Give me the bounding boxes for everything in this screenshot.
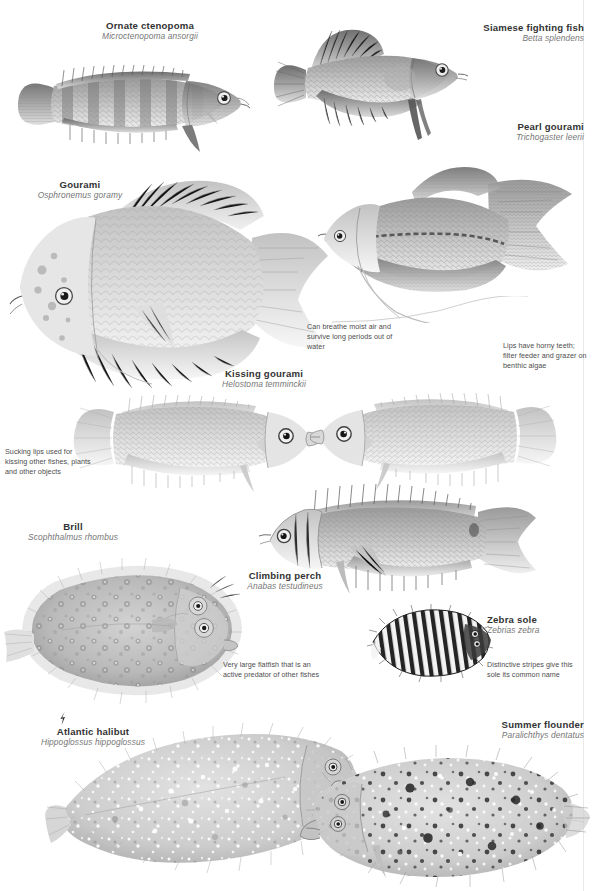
common-name: Summer flounder [420, 719, 584, 730]
common-name: Siamese fighting fish [410, 22, 584, 33]
note-sucking-lips: Sucking lips used for kissing other fish… [5, 447, 95, 478]
label-gourami: Gourami Osphronemus goramy [10, 179, 150, 201]
scientific-name: Helostoma temminckii [190, 380, 338, 390]
label-ornate-ctenopoma: Ornate ctenopoma Microctenopoma ansorgii [75, 20, 225, 42]
label-pearl-gourami: Pearl gourami Trichogaster leerii [420, 121, 584, 143]
label-brill: Brill Scophthalmus rhombus [0, 521, 146, 543]
label-kissing-gourami: Kissing gourami Helostoma temminckii [190, 368, 338, 390]
scientific-name: Paralichthys dentatus [420, 731, 584, 741]
note-large-flatfish: Very large flatfish that is an active pr… [223, 660, 327, 680]
status-marker-icon [60, 711, 69, 724]
note-zebra-stripes: Distinctive stripes give this sole its c… [487, 660, 579, 680]
illustration-summer-flounder [300, 742, 590, 887]
scientific-name: Hippoglossus hippoglossus [0, 738, 186, 748]
illustration-brill [2, 548, 252, 708]
scientific-name: Osphronemus goramy [10, 191, 150, 201]
label-summer-flounder: Summer flounder Paralichthys dentatus [420, 719, 584, 741]
label-siamese-fighting-fish: Siamese fighting fish Betta splendens [410, 22, 584, 44]
illustration-zebra-sole [365, 604, 495, 682]
scientific-name: Microctenopoma ansorgii [75, 32, 225, 42]
common-name: Pearl gourami [420, 121, 584, 132]
common-name: Gourami [10, 179, 150, 190]
common-name: Atlantic halibut [0, 726, 186, 737]
common-name: Ornate ctenopoma [75, 20, 225, 31]
scientific-name: Scophthalmus rhombus [0, 533, 146, 543]
common-name: Kissing gourami [190, 368, 338, 379]
scientific-name: Trichogaster leerii [420, 133, 584, 143]
label-atlantic-halibut: Atlantic halibut Hippoglossus hippogloss… [0, 726, 186, 748]
illustration-ornate-ctenopoma [10, 48, 260, 158]
note-horny-teeth: Lips have horny teeth; filter feeder and… [503, 341, 589, 372]
common-name: Brill [0, 521, 146, 532]
note-air-breathing: Can breathe moist air and survive long p… [307, 322, 403, 353]
illustration-plate: Ornate ctenopoma Microctenopoma ansorgii [0, 0, 594, 891]
common-name: Zebra sole [487, 614, 594, 625]
scientific-name: Betta splendens [410, 34, 584, 44]
scientific-name: Zebrias zebra [487, 626, 594, 636]
label-zebra-sole: Zebra sole Zebrias zebra [487, 614, 594, 636]
